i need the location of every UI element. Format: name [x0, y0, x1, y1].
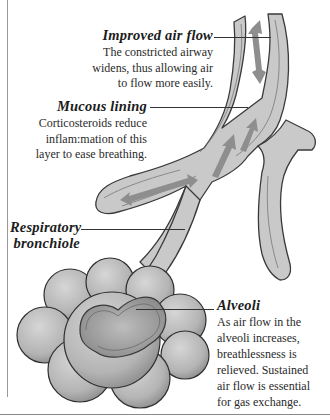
- callout-title-line: Respiratory: [10, 219, 80, 235]
- callout-text-line: breathlessness is: [217, 346, 329, 362]
- callout-text-line: inflam:mation of this: [30, 132, 147, 148]
- callout-text-line: Corticosteroids reduce: [30, 116, 147, 132]
- callout-respiratory-bronchiole: Respiratory bronchiole: [10, 219, 80, 251]
- callout-text-line: for gas exchange.: [217, 394, 329, 410]
- callout-text-line: The constricted airway: [90, 45, 213, 61]
- callout-improved-air-flow: Improved air flow The constricted airway…: [90, 27, 213, 92]
- callout-text-line: widens, thus allowing air: [90, 61, 213, 77]
- arrow-icon: [248, 20, 266, 84]
- callout-alveoli: Alveoli As air flow in the alveoli incre…: [217, 297, 329, 410]
- callout-text-line: to flow more easily.: [90, 76, 213, 92]
- leader-line-respiratory-bronchiole: [81, 229, 185, 230]
- callout-text-line: alveoli increases,: [217, 330, 329, 346]
- callout-mucous-lining: Mucous lining Corticosteroids reduce inf…: [30, 98, 147, 163]
- leader-line-mucous-lining: [150, 107, 248, 108]
- callout-text-line: As air flow in the: [217, 314, 329, 330]
- callout-title: Improved air flow: [90, 27, 213, 43]
- airway-right-branch: [258, 120, 315, 280]
- leader-line-alveoli: [136, 309, 214, 310]
- callout-text-line: layer to ease breathing.: [30, 147, 147, 163]
- callout-title-line: bronchiole: [10, 235, 80, 251]
- callout-title: Alveoli: [217, 297, 329, 313]
- callout-text-line: air flow is essential: [217, 378, 329, 394]
- callout-text-line: relieved. Sustained: [217, 362, 329, 378]
- callout-title: Mucous lining: [30, 98, 147, 114]
- alveoli-cluster: [17, 258, 209, 408]
- leader-line-improved-air-flow: [214, 37, 271, 38]
